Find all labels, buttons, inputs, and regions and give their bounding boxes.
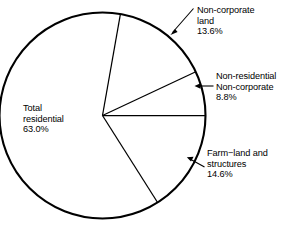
slice-label-farm-land-and-structures: Farm−land and structures 14.6% [207,148,268,180]
slice-value: 14.6% [207,169,268,180]
slice-label-non-corporate-land: Non-corporate land 13.6% [197,5,254,37]
slice-label-line-2: structures [207,159,268,170]
slice-label-line-1: Non-corporate [197,5,254,16]
slice-label-line-2: land [197,16,254,27]
slice-label-non-residential-non-corporate: Non-residential Non-corporate 8.8% [216,71,276,103]
leader-arrow-non-corporate-land [170,9,193,36]
slice-value: 8.8% [216,92,276,103]
slice-label-line-2: residential [23,114,64,125]
slice-label-line-1: Non-residential [216,71,276,82]
slice-label-line-1: Farm−land and [207,148,268,159]
slice-label-line-1: Total [23,103,64,114]
slice-value: 13.6% [197,26,254,37]
pie-chart-figure: Non-corporate land 13.6% Non-residential… [0,0,299,227]
slice-value: 63.0% [23,124,64,135]
slice-label-line-2: Non-corporate [216,82,276,93]
slice-label-total-residential: Total residential 63.0% [23,103,64,135]
